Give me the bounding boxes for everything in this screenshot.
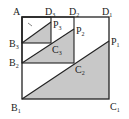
label-d1: D1 xyxy=(102,6,112,18)
label-b1: B1 xyxy=(11,102,21,114)
label-c1: C1 xyxy=(110,101,120,113)
label-p2: P2 xyxy=(76,25,85,37)
label-b3: B3 xyxy=(9,38,19,50)
tick-mark xyxy=(28,23,32,26)
label-a: A xyxy=(13,6,21,17)
geometry-figure: A D3 D2 D1 P3 P2 P1 B3 B2 B1 C3 C2 C1 xyxy=(0,0,129,119)
label-d2: D2 xyxy=(69,6,79,18)
diagram-canvas: A D3 D2 D1 P3 P2 P1 B3 B2 B1 C3 C2 C1 xyxy=(0,0,129,119)
label-p1: P1 xyxy=(111,36,120,48)
label-d3: D3 xyxy=(45,6,55,18)
label-p3: P3 xyxy=(53,19,62,31)
label-b2: B2 xyxy=(9,57,19,69)
